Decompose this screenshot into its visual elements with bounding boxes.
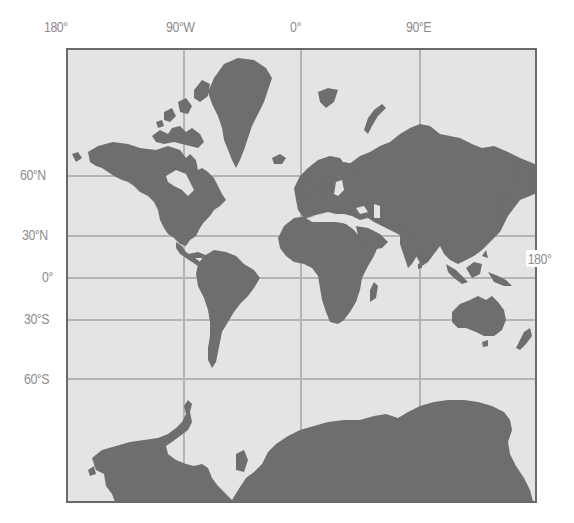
novaya-zemlya [364, 104, 386, 134]
lat-label-30s: 30°S [24, 310, 49, 327]
tasmania [482, 340, 488, 347]
lat-label-60s: 60°S [24, 370, 49, 387]
canadian-arctic-islands [152, 80, 210, 148]
lon-label-90w: 90°W [166, 18, 195, 35]
iceland [272, 154, 286, 164]
antarctica [92, 400, 534, 503]
map-frame [66, 48, 537, 503]
alaska-islands [72, 152, 82, 162]
lat-label-equator: 0° [42, 268, 53, 285]
greenland [208, 58, 272, 168]
svalbard [318, 88, 338, 108]
antarctic-island [88, 466, 96, 476]
landmasses [72, 58, 537, 503]
lon-label-90e: 90°E [406, 18, 431, 35]
world-map-svg [68, 50, 537, 503]
lon-label-0: 0° [290, 18, 301, 35]
lon-label-180e-right: 180° [526, 250, 553, 267]
lat-label-60n: 60°N [20, 166, 46, 183]
lon-label-180w: 180° [44, 18, 68, 35]
south-america [196, 250, 260, 368]
madagascar [370, 282, 378, 302]
sri-lanka [418, 262, 422, 269]
australia [452, 296, 506, 336]
antarctic-island-ross [236, 450, 248, 472]
lat-label-30n: 30°N [22, 226, 48, 243]
new-zealand [516, 328, 532, 350]
north-america [88, 142, 226, 246]
